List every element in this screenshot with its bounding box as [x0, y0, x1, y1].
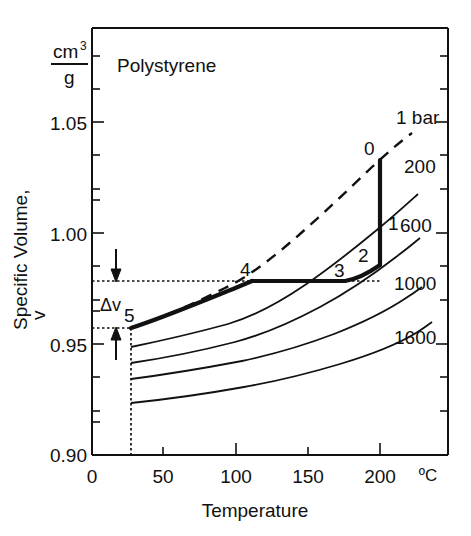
plot-frame	[92, 28, 448, 455]
y-tick-labels: 1.05 1.00 0.95 0.90	[50, 113, 87, 466]
y-unit-numerator: cm	[53, 41, 78, 62]
x-tick-labels: 0 50 100 150 200 ºC	[87, 466, 438, 487]
isobar-label-1000: 1000	[394, 273, 436, 294]
delta-v-arrow-up-head	[111, 327, 121, 340]
y-tick-label-1: 1.05	[50, 113, 87, 134]
delta-v-arrow-down-head	[111, 269, 121, 282]
x-axis-title: Temperature	[202, 500, 309, 521]
x-tick-label-4: 150	[292, 466, 324, 487]
process-segment-5-4	[131, 281, 252, 328]
x-tick-label-5: 200	[364, 466, 396, 487]
isobar-1000	[131, 287, 422, 379]
y-axis-title-line2: v	[28, 310, 49, 320]
isobar-1600	[131, 322, 432, 403]
isobar-label-1600: 1600	[394, 327, 436, 348]
y-tick-label-4: 0.90	[50, 445, 87, 466]
isobar-label-600: 600	[400, 215, 432, 236]
x-tick-label-2: 50	[152, 466, 173, 487]
state-point-label-3: 3	[334, 260, 345, 281]
state-point-label-4: 4	[240, 259, 251, 280]
state-point-label-2: 2	[358, 245, 369, 266]
process-path	[131, 160, 380, 328]
isobar-label-200: 200	[404, 156, 436, 177]
isobar-1bar	[131, 133, 412, 328]
guide-lines	[92, 281, 380, 455]
y-axis-title: Specific Volume, v	[10, 190, 49, 330]
y-axis-title-line1: Specific Volume,	[10, 190, 31, 330]
y-tick-label-3: 0.95	[50, 335, 87, 356]
y-unit-group: cm 3 g	[51, 39, 88, 88]
isobar-600	[131, 238, 420, 363]
x-tick-label-3: 100	[220, 466, 252, 487]
figure-root: cm 3 g 1.05 1.00 0.95 0.90 Specific Volu…	[0, 0, 471, 536]
state-point-label-5: 5	[124, 305, 135, 326]
polystyrene-pvt-chart: cm 3 g 1.05 1.00 0.95 0.90 Specific Volu…	[0, 0, 471, 536]
y-unit-exponent: 3	[80, 39, 87, 53]
state-point-label-1: 1	[388, 213, 399, 234]
isobar-label-1bar: 1 bar	[396, 107, 440, 128]
state-point-label-0: 0	[364, 138, 375, 159]
y-tick-label-2: 1.00	[50, 224, 87, 245]
y-axis-ticks-left	[92, 56, 104, 455]
x-axis-ticks	[163, 443, 380, 455]
x-axis-unit-celsius: ºC	[419, 466, 438, 485]
y-unit-denominator: g	[64, 67, 75, 88]
material-label: Polystyrene	[117, 55, 216, 76]
x-tick-label-1: 0	[87, 466, 98, 487]
state-point-labels: 0 1 2 3 4 5	[124, 138, 399, 326]
isobar-curves	[131, 133, 432, 403]
delta-v-label: Δv	[100, 295, 121, 315]
